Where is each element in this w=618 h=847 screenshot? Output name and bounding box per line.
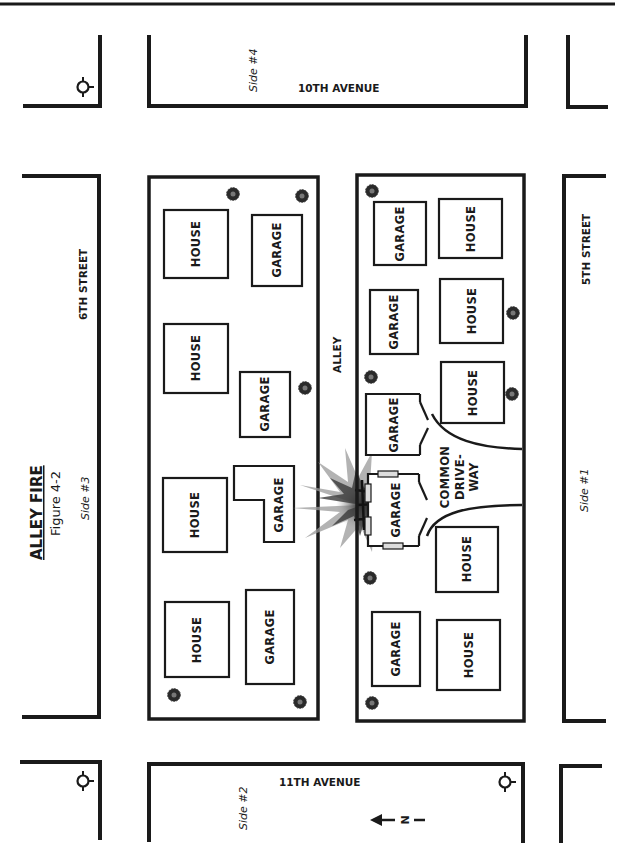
tree-icon: [296, 190, 309, 203]
garage-e1: GARAGE: [374, 202, 426, 265]
svg-text:HOUSE: HOUSE: [465, 288, 479, 334]
house-e5: HOUSE: [437, 620, 500, 690]
garage-w1: GARAGE: [252, 215, 302, 286]
svg-text:GARAGE: GARAGE: [387, 294, 401, 349]
svg-text:GARAGE: GARAGE: [389, 482, 403, 537]
svg-text:GARAGE: GARAGE: [263, 609, 277, 664]
tree-icon: [294, 696, 307, 709]
fire-hydrant-icon: [500, 772, 517, 792]
house-e2: HOUSE: [440, 279, 503, 343]
svg-text:GARAGE: GARAGE: [389, 621, 403, 676]
tree-icon: [507, 307, 520, 320]
svg-text:HOUSE: HOUSE: [462, 632, 476, 678]
figure-number: Figure 4-2: [48, 471, 63, 536]
house-w3: HOUSE: [163, 478, 227, 552]
svg-text:N: N: [399, 815, 412, 824]
tree-icon: [365, 371, 378, 384]
svg-text:HOUSE: HOUSE: [190, 617, 204, 663]
svg-text:HOUSE: HOUSE: [464, 206, 478, 252]
svg-text:COMMON: COMMON: [438, 446, 452, 508]
tree-icon: [364, 572, 377, 585]
house-w4: HOUSE: [165, 602, 229, 677]
house-e1: HOUSE: [439, 199, 502, 258]
svg-text:WAY: WAY: [467, 462, 481, 492]
svg-text:GARAGE: GARAGE: [393, 206, 407, 261]
svg-text:DRIVE-: DRIVE-: [453, 454, 467, 500]
curb-top-right: [568, 35, 608, 107]
fire-hydrant-icon: [78, 771, 95, 791]
tree-icon: [299, 382, 312, 395]
garage-w4: GARAGE: [246, 590, 294, 684]
side-1-label: Side #1: [578, 468, 591, 512]
svg-text:HOUSE: HOUSE: [189, 221, 203, 267]
svg-text:GARAGE: GARAGE: [270, 222, 284, 277]
svg-text:GARAGE: GARAGE: [258, 376, 272, 431]
window: [365, 484, 371, 502]
north-arrow-icon: N: [370, 814, 425, 826]
house-e3: HOUSE: [441, 362, 504, 423]
garage-w3-l-shaped: GARAGE: [234, 466, 294, 542]
house-w1: HOUSE: [164, 210, 228, 278]
tree-icon: [366, 185, 379, 198]
alley-fire-diagram: Side #4 10TH AVENUE 6TH STREET ALLEY FIR…: [0, 0, 618, 847]
house-w2: HOUSE: [164, 324, 228, 393]
side-2-label: Side #2: [237, 786, 250, 830]
diagram-title: ALLEY FIRE: [28, 465, 46, 560]
svg-text:HOUSE: HOUSE: [189, 335, 203, 381]
street-label-10th-avenue: 10TH AVENUE: [298, 82, 379, 94]
svg-text:GARAGE: GARAGE: [272, 477, 286, 532]
svg-text:HOUSE: HOUSE: [466, 370, 480, 416]
common-driveway: COMMON DRIVE- WAY: [427, 414, 522, 536]
svg-text:GARAGE: GARAGE: [387, 397, 401, 452]
garage-w2: GARAGE: [240, 372, 290, 437]
street-label-5th-street: 5TH STREET: [580, 213, 592, 285]
curb-bottom-right: [561, 766, 602, 843]
fire-hydrant-icon: [78, 77, 95, 97]
svg-text:HOUSE: HOUSE: [460, 536, 474, 582]
tree-icon: [506, 388, 519, 401]
side-3-label: Side #3: [79, 476, 92, 520]
tree-icon: [168, 689, 181, 702]
side-4-label: Side #4: [247, 48, 260, 92]
house-e4: HOUSE: [436, 527, 498, 592]
street-label-11th-avenue: 11TH AVENUE: [279, 776, 360, 788]
curb-top-left: [23, 35, 100, 106]
tree-icon: [366, 697, 379, 710]
window: [383, 543, 403, 549]
svg-text:HOUSE: HOUSE: [188, 492, 202, 538]
garage-e4-on-fire: GARAGE: [365, 471, 427, 549]
tree-icon: [227, 188, 240, 201]
block-10th-avenue: [149, 35, 526, 106]
window: [378, 471, 398, 477]
curb-bottom-left: [20, 762, 100, 840]
garage-e2: GARAGE: [370, 290, 418, 354]
street-label-6th-street: 6TH STREET: [77, 248, 89, 320]
garage-e5: GARAGE: [372, 612, 420, 686]
window: [365, 517, 371, 535]
street-label-alley: ALLEY: [331, 336, 343, 373]
garage-e3: GARAGE: [366, 394, 428, 455]
